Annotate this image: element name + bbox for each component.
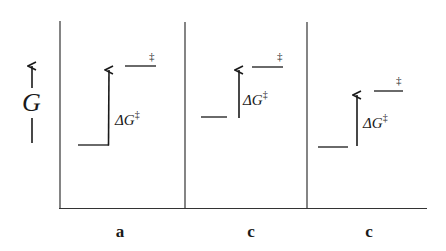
panel-b-delta-g-dagger: ‡ xyxy=(263,89,268,100)
y-axis-label: G xyxy=(22,88,41,118)
panel-a-ts-dagger: ‡ xyxy=(149,50,155,62)
panel-c-delta-g-label: ΔG‡ xyxy=(363,112,388,132)
panel-b-delta-g-text: ΔG xyxy=(243,92,263,108)
panel-a-label: a xyxy=(116,222,125,242)
panel-a-delta-g-label: ΔG‡ xyxy=(115,109,140,129)
panel-b-ts-dagger: ‡ xyxy=(277,50,283,62)
panel-c-delta-g-text: ΔG xyxy=(363,115,383,131)
panel-c-label: c xyxy=(365,222,373,242)
panel-a-barrier-arrow xyxy=(109,70,110,146)
panel-b-label: c xyxy=(247,222,255,242)
panel-c-delta-g-dagger: ‡ xyxy=(383,112,388,123)
panel-c-ts-dagger: ‡ xyxy=(396,74,402,86)
panel-a-delta-g-dagger: ‡ xyxy=(135,109,140,120)
panel-a-delta-g-text: ΔG xyxy=(115,112,135,128)
panel-b-delta-g-label: ΔG‡ xyxy=(243,89,268,109)
